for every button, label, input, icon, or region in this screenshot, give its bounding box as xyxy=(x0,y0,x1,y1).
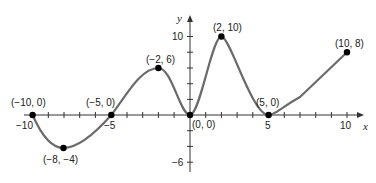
y-axis-arrow-icon xyxy=(187,15,193,22)
point-10-8 xyxy=(344,49,350,55)
point-neg10-0 xyxy=(29,112,35,118)
tick-label-y-neg6: −6 xyxy=(172,157,184,168)
point-5-0 xyxy=(265,112,271,118)
point-label-5-0: (5, 0) xyxy=(256,97,279,108)
point-label-neg5-0: (−5, 0) xyxy=(86,97,115,108)
point-label-2-10: (2, 10) xyxy=(213,22,242,33)
point-label-neg10-0: (−10, 0) xyxy=(11,97,46,108)
y-axis-label: y xyxy=(176,12,182,24)
tick-label-x-neg5: −5 xyxy=(104,120,116,131)
tick-label-x-10: 10 xyxy=(340,120,352,131)
point-label-neg8-neg4: (−8, −4) xyxy=(43,154,78,165)
point-0-0 xyxy=(187,112,193,118)
tick-label-x-5: 5 xyxy=(265,120,271,131)
tick-label-y-10: 10 xyxy=(172,31,184,42)
point-2-10 xyxy=(218,33,224,39)
tick-label-x-neg10: −10 xyxy=(16,120,33,131)
point-label-0-0: (0, 0) xyxy=(192,119,215,130)
point-label-10-8: (10, 8) xyxy=(335,38,364,49)
x-axis-label: x xyxy=(362,120,368,132)
x-axis-arrow-icon xyxy=(357,112,364,118)
point-neg8-neg4 xyxy=(60,145,66,151)
point-label-neg2-6: (−2, 6) xyxy=(146,54,175,65)
function-graph: x y −10 −5 5 10 10 −6 (−10, 0) (−8, −4) … xyxy=(0,0,376,183)
point-neg5-0 xyxy=(108,112,114,118)
point-neg2-6 xyxy=(155,65,161,71)
